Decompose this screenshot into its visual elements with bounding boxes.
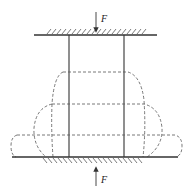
barrel-outline-stage-1 [52, 72, 145, 157]
force-label-bottom: F [100, 174, 108, 185]
compression-diagram: F [0, 0, 191, 194]
force-arrow-bottom: F [96, 169, 108, 186]
top-plate [34, 29, 157, 35]
bottom-plate [12, 157, 178, 163]
barrel-outline-stage-2 [34, 104, 162, 157]
force-arrow-top: F [96, 12, 108, 30]
original-cylinder [69, 35, 124, 157]
force-label-top: F [100, 13, 108, 24]
barrel-outline-stage-3 [11, 135, 182, 157]
